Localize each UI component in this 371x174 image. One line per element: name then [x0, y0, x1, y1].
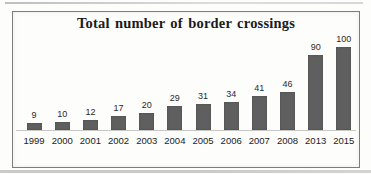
bar-column: 10 — [48, 110, 76, 130]
x-tick-label: 2001 — [76, 136, 104, 146]
bar — [196, 104, 211, 130]
x-tick-label: 2013 — [302, 136, 330, 146]
bar — [336, 47, 351, 130]
bar-column: 20 — [133, 101, 161, 130]
scan-artifact-top — [5, 2, 363, 4]
bar-value-label: 29 — [170, 94, 180, 103]
bar — [139, 113, 154, 130]
bar-column: 90 — [302, 43, 330, 130]
bar — [252, 96, 267, 130]
bar — [224, 102, 239, 130]
bar-value-label: 34 — [226, 90, 236, 99]
bar — [280, 92, 295, 130]
bar-value-label: 17 — [114, 104, 124, 113]
bar-value-label: 9 — [32, 111, 37, 120]
x-tick-label: 2004 — [161, 136, 189, 146]
x-tick-label: 2007 — [245, 136, 273, 146]
bar-value-label: 10 — [57, 110, 67, 119]
bar-column: 29 — [161, 94, 189, 130]
bar-column: 34 — [217, 90, 245, 130]
x-tick-label: 2006 — [217, 136, 245, 146]
x-tick-label: 2000 — [48, 136, 76, 146]
x-tick-label: 1999 — [20, 136, 48, 146]
bar-value-label: 20 — [142, 101, 152, 110]
scan-artifact-bottom — [0, 170, 371, 173]
bar-column: 9 — [20, 111, 48, 130]
scanned-chart-page: Total number of border crossings 9101217… — [0, 0, 371, 174]
bar — [167, 106, 182, 130]
bar-column: 41 — [245, 84, 273, 130]
bar — [111, 116, 126, 130]
chart-frame: Total number of border crossings 9101217… — [12, 11, 360, 168]
x-tick-label: 2005 — [189, 136, 217, 146]
bar-value-label: 90 — [311, 43, 321, 52]
bar-column: 17 — [104, 104, 132, 130]
x-tick-label: 2015 — [330, 136, 358, 146]
x-axis-line — [16, 130, 356, 132]
bar-column: 100 — [330, 35, 358, 130]
x-tick-label: 2008 — [273, 136, 301, 146]
x-tick-label: 2002 — [104, 136, 132, 146]
bar-value-label: 41 — [254, 84, 264, 93]
x-axis-labels: 1999200020012002200320042005200620072008… — [20, 136, 358, 146]
bar-plot: 910121720293134414690100 — [20, 12, 358, 130]
bar-value-label: 46 — [282, 80, 292, 89]
bar-column: 12 — [76, 108, 104, 130]
bar-value-label: 12 — [85, 108, 95, 117]
bar — [308, 55, 323, 130]
bar-column: 46 — [273, 80, 301, 130]
bar-column: 31 — [189, 92, 217, 130]
x-tick-label: 2003 — [133, 136, 161, 146]
bar-value-label: 100 — [336, 35, 351, 44]
bar — [83, 120, 98, 130]
bar-value-label: 31 — [198, 92, 208, 101]
